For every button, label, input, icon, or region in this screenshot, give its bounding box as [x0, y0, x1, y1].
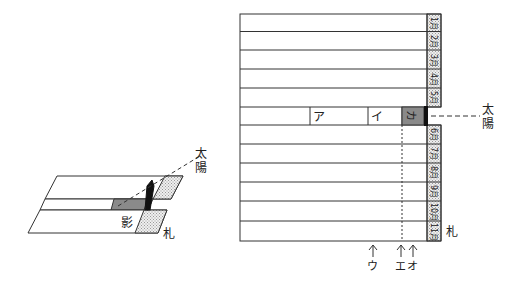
left-sun-label-1: 太: [195, 146, 207, 161]
row-lines: [240, 32, 441, 222]
month-label-11: 11月: [429, 223, 438, 241]
grid-frame: [240, 14, 427, 241]
arrow-label-o: オ: [407, 260, 418, 273]
right-grid-figure: [240, 14, 480, 257]
month-label-3: 3月: [429, 54, 438, 67]
arrow-u: [369, 245, 377, 257]
left-sun-label-2: 陽: [195, 161, 207, 175]
diagram-canvas: 太 陽 影 札: [0, 0, 528, 288]
left-card-label: 札: [163, 227, 175, 241]
month-label-5: 5月: [429, 91, 438, 104]
arrow-label-u: ウ: [367, 260, 378, 273]
month-label-6: 6月: [429, 128, 438, 141]
month-label-2: 2月: [429, 35, 438, 48]
month-label-1: 1月: [429, 17, 438, 30]
right-sun-label-2: 陽: [482, 117, 494, 131]
arrow-o: [409, 245, 417, 257]
left-shadow-label: 影: [121, 216, 133, 230]
month-label-7: 7月: [429, 147, 438, 160]
shadow-region: [111, 199, 148, 210]
arrow-e: [397, 245, 405, 257]
gnomon-bar: [424, 106, 428, 126]
right-card-label: 札: [446, 225, 458, 239]
right-sun-label-1: 太: [482, 102, 494, 117]
label-a: ア: [313, 110, 325, 124]
month-label-9: 9月: [429, 185, 438, 198]
label-ka: カ: [404, 110, 417, 121]
month-label-10: 10月: [429, 203, 438, 221]
month-label-4: 4月: [429, 73, 438, 86]
arrow-label-e: エ: [395, 260, 406, 273]
label-i: イ: [371, 110, 383, 124]
left-perspective-figure: [28, 156, 200, 233]
month-label-8: 8月: [429, 166, 438, 179]
